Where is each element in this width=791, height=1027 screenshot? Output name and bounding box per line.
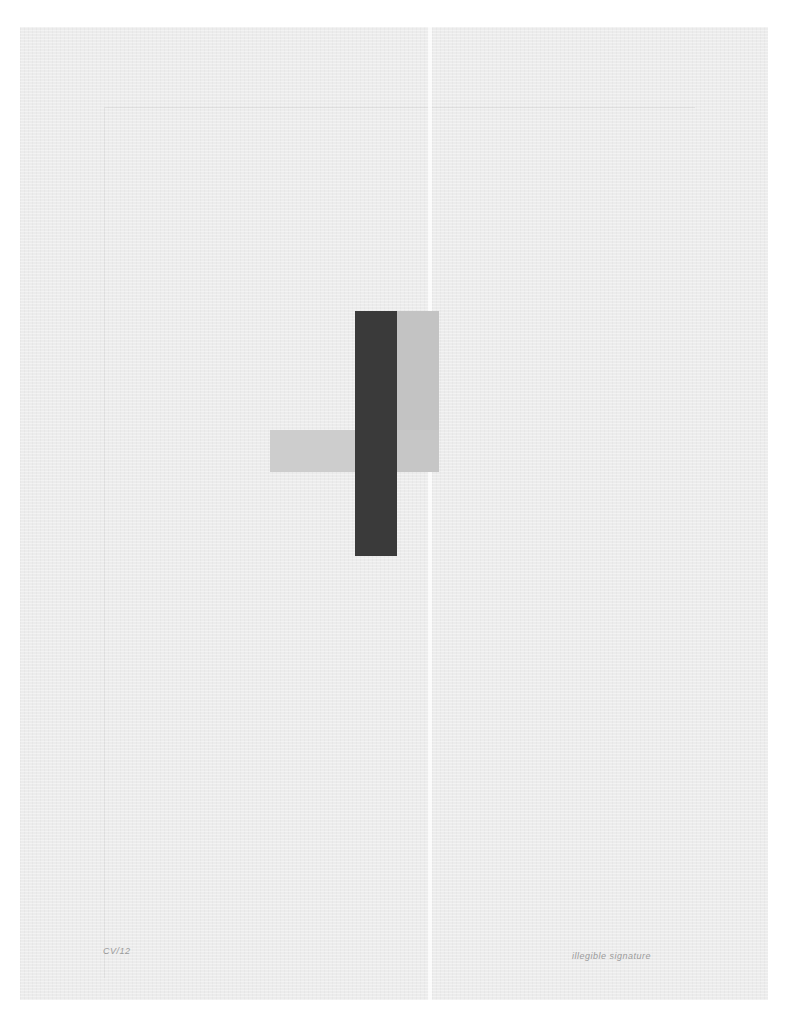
artist-signature: illegible signature	[572, 951, 651, 961]
paper-sheet: CV/12 illegible signature	[20, 27, 768, 1000]
edition-number: CV/12	[103, 946, 131, 956]
grey-overlap-rect	[397, 430, 439, 472]
plate-mark	[104, 107, 695, 978]
dark-vertical-bar	[355, 311, 397, 556]
center-fold-line	[428, 27, 432, 1000]
grey-vertical-rect	[397, 311, 439, 430]
